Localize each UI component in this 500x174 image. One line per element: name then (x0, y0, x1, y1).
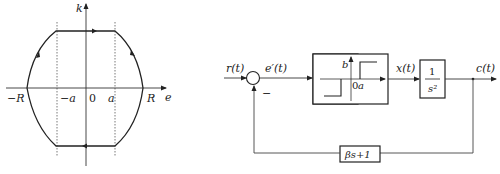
relay-b-label: b (342, 59, 348, 70)
relay-a-label: a (358, 80, 364, 91)
output-label: c(t) (476, 62, 495, 75)
relay-output-label: x(t) (396, 62, 415, 75)
plant-numerator: 1 (429, 66, 435, 77)
block-diagram-right: b 0 a x(t) 1 s² c(t) βs+1 (254, 54, 496, 162)
feedback-block-label: βs+1 (344, 149, 371, 160)
plant-denominator: s² (428, 83, 437, 94)
diagram-canvas-right: b 0 a x(t) 1 s² c(t) βs+1 (0, 0, 500, 174)
